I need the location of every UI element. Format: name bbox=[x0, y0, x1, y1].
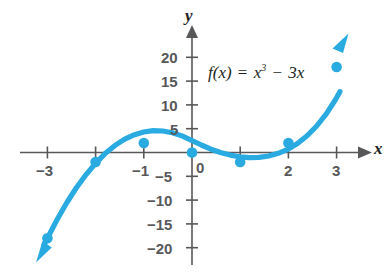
data-point bbox=[90, 157, 101, 168]
x-tick-label-3: 3 bbox=[332, 163, 340, 178]
y-tick-label-neg10: −10 bbox=[147, 193, 172, 208]
x-axis-label: x bbox=[374, 140, 383, 157]
equation-exponent: 3 bbox=[261, 62, 266, 73]
y-axis-arrow-icon bbox=[186, 25, 198, 38]
figure-canvas: y x −3 −1 0 2 3 20 15 10 5 −5 −10 −15 −2… bbox=[0, 0, 391, 278]
data-point bbox=[42, 233, 53, 244]
y-tick-label-10: 10 bbox=[161, 98, 178, 113]
data-point bbox=[331, 62, 342, 73]
function-plot bbox=[0, 0, 391, 278]
equation-equals: = bbox=[236, 63, 250, 82]
y-tick-label-neg5: −5 bbox=[155, 169, 172, 184]
x-axis-arrow-icon bbox=[358, 147, 372, 159]
data-point bbox=[139, 138, 150, 149]
data-point bbox=[235, 157, 246, 168]
x-tick-label-2: 2 bbox=[284, 163, 292, 178]
data-point bbox=[283, 138, 294, 149]
x-tick-label-zero: 0 bbox=[196, 160, 204, 175]
y-tick-label-neg15: −15 bbox=[147, 217, 172, 232]
y-tick-label-5: 5 bbox=[170, 122, 178, 137]
curve-arrow-upper-right-icon bbox=[333, 34, 349, 54]
y-tick-label-15: 15 bbox=[161, 74, 178, 89]
data-point bbox=[187, 147, 198, 158]
equation-term: 3x bbox=[288, 63, 304, 82]
y-tick-label-neg20: −20 bbox=[147, 241, 172, 256]
x-tick-label-neg1: −1 bbox=[132, 163, 149, 178]
curve-arrow-lower-left-icon bbox=[36, 241, 52, 263]
equation-annotation: f(x) = x3 − 3x bbox=[208, 64, 304, 81]
y-axis-label: y bbox=[185, 7, 193, 24]
y-tick-label-20: 20 bbox=[161, 50, 178, 65]
equation-fn-arg: (x) bbox=[213, 63, 232, 82]
equation-minus: − bbox=[271, 63, 285, 82]
x-tick-label-neg3: −3 bbox=[36, 163, 53, 178]
